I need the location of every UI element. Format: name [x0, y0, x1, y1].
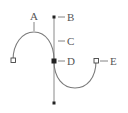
label-a: A	[30, 10, 38, 22]
anchor-point-e	[94, 59, 99, 64]
curve-segment-upper	[13, 32, 54, 60]
anchor-point-left	[11, 58, 16, 63]
label-e: E	[110, 55, 117, 67]
direction-point-top	[53, 16, 56, 19]
direction-point-bottom	[53, 102, 56, 105]
label-d: D	[67, 55, 75, 67]
bezier-diagram: A B C D E	[0, 0, 128, 113]
label-b: B	[67, 11, 74, 23]
label-c: C	[67, 35, 74, 47]
anchor-point-d-selected	[52, 59, 57, 64]
curve-segment-lower	[54, 61, 96, 88]
